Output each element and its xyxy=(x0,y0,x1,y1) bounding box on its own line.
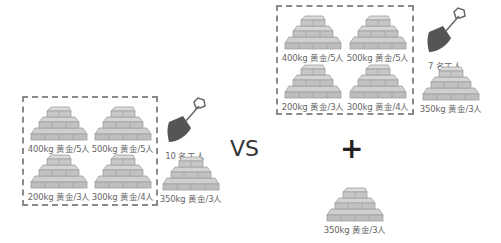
gold-pile-label: 300kg 黄金/4人 xyxy=(90,190,156,202)
workers-a: 10 名工人 xyxy=(160,96,210,161)
gold-pile-label: 300kg 黄金/4人 xyxy=(345,100,411,112)
gold-pile-label: 350kg 黄金/3人 xyxy=(322,223,388,235)
gold-pile-label: 200kg 黄金/3人 xyxy=(280,100,346,112)
plus-sign: + xyxy=(340,132,363,165)
gold-pile-added: 350kg 黄金/3人 xyxy=(322,185,388,235)
shovel-icon xyxy=(421,6,469,54)
gold-bricks-icon xyxy=(281,13,345,50)
gold-pile-a-1: 400kg 黄金/5人 xyxy=(26,104,92,154)
gold-bricks-icon xyxy=(159,154,223,191)
gold-bricks-icon xyxy=(346,13,410,50)
gold-pile-a-extra: 350kg 黄金/3人 xyxy=(158,154,224,204)
gold-pile-label: 350kg 黄金/3人 xyxy=(418,102,484,114)
gold-bricks-icon xyxy=(419,64,483,101)
vs-label: VS xyxy=(230,136,259,161)
gold-pile-label: 200kg 黄金/3人 xyxy=(26,190,92,202)
gold-pile-a-4: 300kg 黄金/4人 xyxy=(90,152,156,202)
gold-bricks-icon xyxy=(27,104,91,141)
gold-bricks-icon xyxy=(91,104,155,141)
gold-pile-a-3: 200kg 黄金/3人 xyxy=(26,152,92,202)
gold-bricks-icon xyxy=(91,152,155,189)
gold-pile-label: 350kg 黄金/3人 xyxy=(158,192,224,204)
gold-pile-a-2: 500kg 黄金/5人 xyxy=(90,104,156,154)
gold-bricks-icon xyxy=(323,185,387,222)
gold-pile-b-extra: 350kg 黄金/3人 xyxy=(418,64,484,114)
gold-bricks-icon xyxy=(27,152,91,189)
gold-bricks-icon xyxy=(281,62,345,99)
shovel-icon xyxy=(161,96,209,144)
gold-pile-b-4: 300kg 黄金/4人 xyxy=(345,62,411,112)
gold-pile-b-2: 500kg 黄金/5人 xyxy=(345,13,411,63)
workers-b: 7 名工人 xyxy=(420,6,470,71)
gold-bricks-icon xyxy=(346,62,410,99)
gold-pile-b-1: 400kg 黄金/5人 xyxy=(280,13,346,63)
gold-pile-b-3: 200kg 黄金/3人 xyxy=(280,62,346,112)
